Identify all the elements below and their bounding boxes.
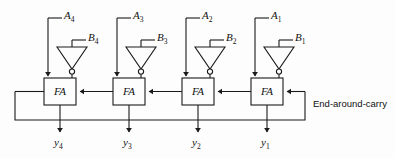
fa3-label: FA — [113, 85, 145, 97]
label-b4: B4 — [88, 31, 98, 46]
label-b3: B3 — [157, 31, 167, 46]
label-b2: B2 — [226, 31, 236, 46]
inverter-3 — [126, 47, 156, 69]
label-y3: y3 — [123, 136, 132, 151]
label-a4: A4 — [64, 9, 74, 24]
inverter-4-bubble — [69, 69, 74, 74]
circuit-wiring — [0, 0, 395, 158]
end-around-carry-label: End-around-carry — [313, 98, 387, 109]
label-y2: y2 — [192, 136, 201, 151]
inverter-1 — [264, 47, 294, 69]
inverter-2-bubble — [207, 69, 212, 74]
inverter-2 — [195, 47, 225, 69]
inverter-1-bubble — [276, 69, 281, 74]
label-a1: A1 — [271, 9, 281, 24]
label-y1: y1 — [261, 136, 270, 151]
fa2-label: FA — [182, 85, 214, 97]
circuit-diagram: A4 A3 A2 A1 B4 B3 B2 B1 FA FA FA FA y4 y… — [0, 0, 395, 158]
label-a2: A2 — [202, 9, 212, 24]
inverter-3-bubble — [138, 69, 143, 74]
label-b1: B1 — [295, 31, 305, 46]
fa4-label: FA — [44, 85, 76, 97]
label-a3: A3 — [133, 9, 143, 24]
label-y4: y4 — [54, 136, 63, 151]
fa1-label: FA — [251, 85, 283, 97]
inverter-4 — [57, 47, 87, 69]
